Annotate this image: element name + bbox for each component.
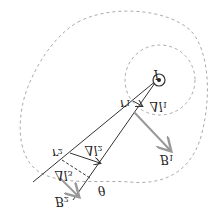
label-b2: B2: [54, 194, 69, 208]
label-b1: B1: [159, 152, 174, 166]
label-r1: r1: [120, 97, 131, 111]
label-r2: r2: [52, 146, 63, 160]
label-dl1: Δl1: [149, 99, 168, 113]
label-dl3: Δl3: [54, 168, 73, 182]
outer-dashed-loop: [20, 11, 207, 182]
label-dl2: Δl2: [84, 143, 103, 157]
radial-line-1: [33, 80, 157, 182]
label-current: I: [153, 67, 159, 81]
diagram-svg: I r1 Δl1 B1 r2 Δl2 Δl3 B2 θ: [0, 0, 216, 219]
label-theta: θ: [98, 183, 106, 197]
ampere-loop-diagram: I r1 Δl1 B1 r2 Δl2 Δl3 B2 θ: [0, 0, 216, 219]
b1-arrow: [134, 112, 170, 150]
